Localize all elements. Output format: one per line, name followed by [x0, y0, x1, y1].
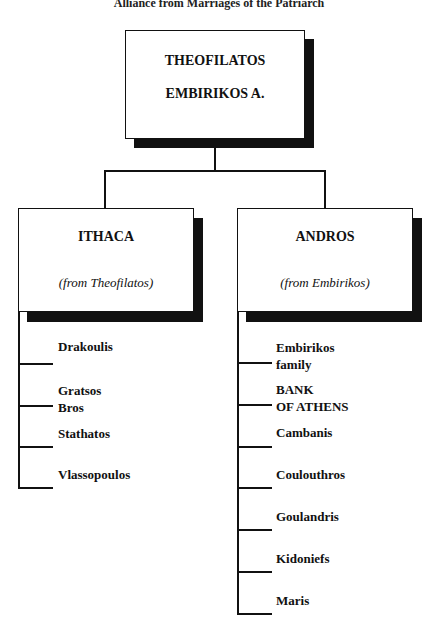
ithaca-spine [18, 312, 20, 488]
andros-item-embirikos-family: Embirikos family [276, 339, 335, 373]
ithaca-title: ITHACA [19, 229, 193, 245]
connector-left-down [104, 170, 106, 208]
ithaca-tick [18, 446, 53, 448]
andros-tick [237, 404, 272, 406]
andros-item-maris: Maris [276, 592, 309, 609]
ithaca-item-vlassopoulos: Vlassopoulos [58, 466, 130, 483]
andros-item-coulouthros: Coulouthros [276, 466, 345, 483]
diagram-caption: Alliance from Marriages of the Patriarch [0, 0, 438, 11]
andros-title: ANDROS [238, 229, 412, 245]
connector-horizontal [104, 170, 325, 172]
root-box: THEOFILATOS EMBIRIKOS A. [125, 30, 305, 139]
andros-tick [237, 571, 272, 573]
ithaca-subtitle: (from Theofilatos) [19, 275, 193, 291]
andros-tick [237, 487, 272, 489]
ithaca-tick [18, 405, 53, 407]
ithaca-tick [18, 363, 53, 365]
root-name-1: THEOFILATOS [126, 53, 304, 69]
ithaca-item-stathatos: Stathatos [58, 425, 110, 442]
andros-tick [237, 613, 272, 615]
andros-tick [237, 446, 272, 448]
andros-item-bank-of-athens: BANK OF ATHENS [276, 381, 349, 415]
andros-box: ANDROS (from Embirikos) [237, 208, 413, 312]
andros-item-cambanis: Cambanis [276, 424, 332, 441]
andros-tick [237, 362, 272, 364]
andros-tick [237, 529, 272, 531]
ithaca-item-gratsos-bros: Gratsos Bros [58, 382, 101, 416]
connector-right-down [324, 170, 326, 208]
ithaca-tick [18, 487, 53, 489]
ithaca-box: ITHACA (from Theofilatos) [18, 208, 194, 312]
andros-subtitle: (from Embirikos) [238, 275, 412, 291]
andros-item-goulandris: Goulandris [276, 508, 339, 525]
ithaca-item-drakoulis: Drakoulis [58, 338, 113, 355]
andros-item-kidoniefs: Kidoniefs [276, 550, 329, 567]
root-name-2: EMBIRIKOS A. [126, 86, 304, 102]
connector-root-down [214, 148, 216, 170]
andros-spine [237, 312, 239, 614]
